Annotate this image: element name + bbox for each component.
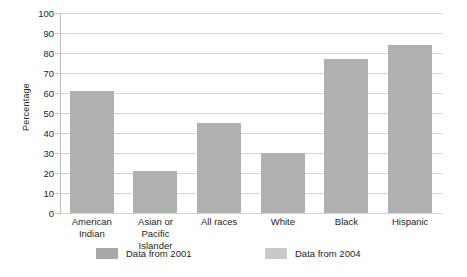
bar (324, 59, 368, 213)
bar-slot (315, 13, 379, 213)
y-tick-mark-0 (55, 213, 60, 214)
legend-swatch (96, 248, 118, 259)
bar-slot (378, 13, 442, 213)
bar-slot (60, 13, 124, 213)
x-tick-label-line: White (251, 216, 315, 228)
x-tick-label: Black (315, 216, 379, 228)
x-tick-label: Asian orPacific Islander (124, 216, 188, 252)
x-tick-label: All races (187, 216, 251, 228)
bar-chart-figure: Percentage 1009080706050403020100 Americ… (0, 0, 467, 277)
y-tick-label-30: 30 (43, 148, 54, 159)
x-tick-label: Hispanic (378, 216, 442, 228)
x-tick-label: AmericanIndian (60, 216, 124, 240)
legend-label: Data from 2001 (126, 248, 191, 259)
x-tick-label-line: Black (315, 216, 379, 228)
x-tick-label-line: All races (187, 216, 251, 228)
legend-label: Data from 2004 (295, 248, 360, 259)
plot-area: 1009080706050403020100 (60, 13, 442, 213)
y-tick-label-0: 0 (49, 208, 54, 219)
y-tick-label-40: 40 (43, 128, 54, 139)
x-tick-label-line: Asian or (124, 216, 188, 228)
bars-group (60, 13, 442, 213)
y-tick-label-100: 100 (38, 8, 54, 19)
legend-item: Data from 2004 (265, 248, 360, 259)
x-tick-label: White (251, 216, 315, 228)
x-tick-label-line: Hispanic (378, 216, 442, 228)
y-tick-label-90: 90 (43, 28, 54, 39)
y-axis-title: Percentage (14, 0, 38, 213)
y-tick-label-80: 80 (43, 48, 54, 59)
y-axis-title-label: Percentage (21, 82, 31, 130)
bar (70, 91, 114, 213)
x-tick-label-line: Indian (60, 228, 124, 240)
bar (388, 45, 432, 213)
y-tick-label-50: 50 (43, 108, 54, 119)
chart-legend: Data from 2001Data from 2004 (0, 248, 467, 268)
x-axis-category-labels: AmericanIndianAsian orPacific IslanderAl… (60, 216, 442, 246)
bar (197, 123, 241, 213)
legend-item: Data from 2001 (96, 248, 191, 259)
bar (261, 153, 305, 213)
y-tick-label-10: 10 (43, 188, 54, 199)
gridline-0 (60, 213, 442, 214)
legend-swatch (265, 248, 287, 259)
y-tick-label-20: 20 (43, 168, 54, 179)
bar-slot (251, 13, 315, 213)
x-tick-label-line: American (60, 216, 124, 228)
bar (133, 171, 177, 213)
bar-slot (187, 13, 251, 213)
y-tick-label-60: 60 (43, 88, 54, 99)
y-tick-label-70: 70 (43, 68, 54, 79)
bar-slot (124, 13, 188, 213)
